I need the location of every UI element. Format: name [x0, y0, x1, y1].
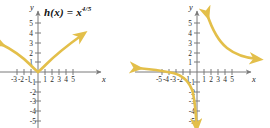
x-tick-label: 3 — [216, 75, 220, 84]
equation-left-equals: = — [67, 6, 73, 18]
x-tick-label: 5 — [71, 75, 75, 84]
x-axis-label-left: x — [101, 75, 106, 84]
x-tick-label: 5 — [230, 75, 234, 84]
curve-right-branch — [38, 35, 82, 72]
curve-upper-right-branch — [207, 14, 257, 59]
x-axis-label-right: x — [251, 75, 256, 84]
y-tick-label: -4 — [30, 107, 36, 116]
y-tick-label: 1 — [188, 58, 192, 67]
equation-left: h(x) = x4/5 — [44, 5, 91, 18]
y-tick-label: 2 — [29, 49, 33, 58]
y-tick-label: 5 — [29, 19, 33, 28]
y-tick-label: -5 — [30, 117, 36, 126]
equation-left-fn: h(x) — [44, 6, 64, 18]
x-tick-label: 4 — [64, 75, 68, 84]
x-tick-label: 3 — [57, 75, 61, 84]
y-tick-label: -3 — [30, 97, 36, 106]
y-tick-label: -5 — [189, 117, 195, 126]
y-tick-label: 4 — [29, 29, 33, 38]
y-axis-label-right: y — [188, 3, 193, 12]
x-tick-label: 2 — [209, 75, 213, 84]
math-figure-pair: -3 -2 -1 1 2 3 4 5 5 4 3 2 1 -1 -2 -3 -4… — [0, 0, 270, 128]
y-tick-label: 2 — [188, 49, 192, 58]
x-tick-label: -3 — [11, 75, 17, 84]
y-tick-label: -2 — [30, 88, 36, 97]
x-tick-label: 2 — [50, 75, 54, 84]
graph-svg-right: -5 -4 -3 -2 -1 1 2 3 4 5 5 4 3 2 1 -1 -2… — [135, 0, 270, 128]
y-tick-label: 5 — [188, 19, 192, 28]
y-axis-label-left: y — [29, 3, 34, 12]
x-tick-label: -2 — [18, 75, 24, 84]
y-tick-label: 3 — [188, 39, 192, 48]
x-tick-label: -4 — [163, 75, 169, 84]
graph-panel-right: -5 -4 -3 -2 -1 1 2 3 4 5 5 4 3 2 1 -1 -2… — [135, 0, 270, 128]
x-tick-label: -5 — [156, 75, 162, 84]
y-tick-label: 3 — [29, 39, 33, 48]
x-tick-label: 1 — [43, 75, 47, 84]
x-tick-label: -3 — [170, 75, 176, 84]
y-tick-label: 4 — [188, 29, 192, 38]
graph-panel-left: -3 -2 -1 1 2 3 4 5 5 4 3 2 1 -1 -2 -3 -4… — [0, 0, 120, 128]
x-tick-label: 1 — [202, 75, 206, 84]
equation-left-exponent: 4/5 — [82, 5, 92, 13]
graph-svg-left: -3 -2 -1 1 2 3 4 5 5 4 3 2 1 -1 -2 -3 -4… — [0, 0, 120, 128]
x-tick-label: 4 — [223, 75, 227, 84]
y-tick-label: -1 — [30, 78, 36, 87]
